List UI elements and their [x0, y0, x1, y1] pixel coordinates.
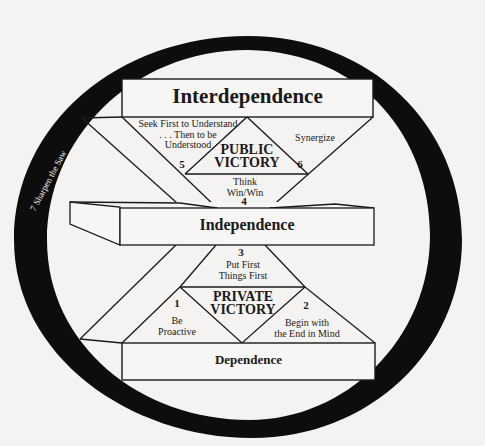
habit-2-text: Begin with the End in Mind [262, 318, 352, 339]
public-victory-line-2: VICTORY [200, 156, 294, 169]
lower-left-ledge-line [80, 339, 122, 343]
habit-5-line-3: Understood [128, 140, 248, 151]
habit-2-line-1: Begin with [262, 318, 352, 329]
habit-1-line-1: Be [150, 316, 204, 327]
habit-3-line-1: Put First [205, 260, 281, 271]
habit-6-number: 6 [293, 159, 307, 171]
dependence-title: Dependence [122, 353, 375, 367]
habit-5-line-1: Seek First to Understand [128, 119, 248, 130]
habit-5-number: 5 [175, 159, 189, 171]
habit-2-number: 2 [299, 300, 313, 312]
interdependence-title: Interdependence [122, 85, 373, 107]
habit-6-text: Synergize [280, 133, 350, 144]
habit-1-line-2: Proactive [150, 327, 204, 338]
habit-1-number: 1 [170, 298, 184, 310]
habit-3-line-2: Things First [205, 271, 281, 282]
habit-5-text: Seek First to Understand . . . Then to b… [128, 119, 248, 151]
private-victory-line-2: VICTORY [196, 303, 290, 316]
habit-4-line-1: Think [215, 177, 275, 188]
maturity-continuum-diagram: 7 Sharpen the Saw Interdependence Indepe… [0, 0, 485, 446]
habit-4-number: 4 [237, 196, 251, 208]
independence-title: Independence [120, 217, 374, 234]
habit-3-number: 3 [234, 247, 248, 259]
private-victory-label: PRIVATE VICTORY [196, 290, 290, 317]
habit-3-text: Put First Things First [205, 260, 281, 281]
independence-box-side [70, 202, 120, 245]
habit-2-line-2: the End in Mind [262, 329, 352, 340]
private-victory-line-1: PRIVATE [196, 290, 290, 303]
habit-1-text: Be Proactive [150, 316, 204, 337]
